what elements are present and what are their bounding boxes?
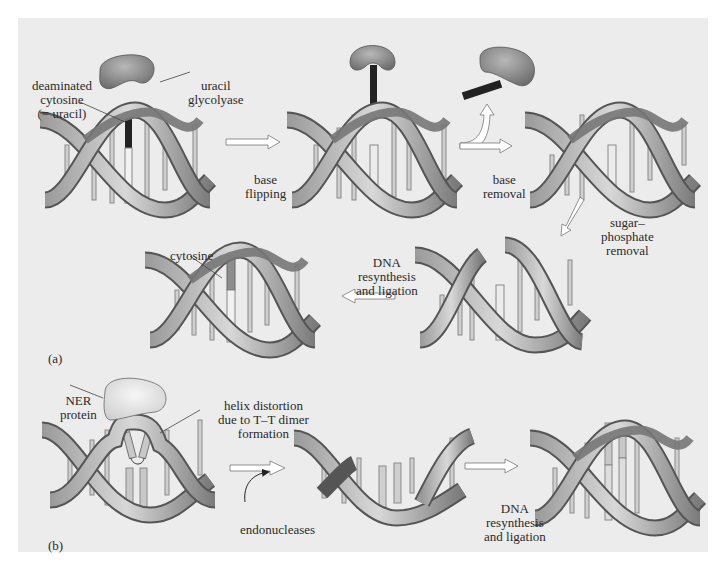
helix-distortion-label: helix distortion due to T–T dimer format… xyxy=(218,399,309,441)
sugar-phosphate-removal-label: sugar– phosphate removal xyxy=(601,216,654,258)
ner-protein xyxy=(104,378,166,420)
figure-panel: deaminated cytosine (= uracil) uracil gl… xyxy=(18,18,708,552)
helix-b1 xyxy=(42,420,215,515)
cytosine-label: cytosine xyxy=(170,249,213,263)
glycolyase-released xyxy=(480,47,534,86)
endonucleases-label: endonucleases xyxy=(240,523,315,537)
dna-resynthesis-label-a: DNA resynthesis and ligation xyxy=(356,256,418,298)
base-flipping-label: base flipping xyxy=(245,173,286,201)
helix-a2 xyxy=(287,65,457,210)
helix-a1 xyxy=(40,108,210,210)
uracil-glycolyase-label: uracil glycolyase xyxy=(188,79,244,107)
dna-resynthesis-label-b: DNA resynthesis and ligation xyxy=(484,502,546,544)
removed-uracil xyxy=(462,80,503,100)
uracil-glycolyase xyxy=(100,55,154,89)
panel-b-label: (b) xyxy=(48,538,63,554)
deaminated-cytosine-label: deaminated cytosine (= uracil) xyxy=(32,79,92,121)
helix-b2 xyxy=(294,436,472,518)
helix-b3 xyxy=(530,423,700,528)
helix-a4 xyxy=(415,245,585,345)
helix-a3 xyxy=(525,110,695,210)
helix-a5 xyxy=(145,248,315,350)
base-removal-label: base removal xyxy=(483,173,526,201)
ner-protein-label: NER protein xyxy=(60,394,97,422)
panel-a-label: (a) xyxy=(48,351,62,367)
